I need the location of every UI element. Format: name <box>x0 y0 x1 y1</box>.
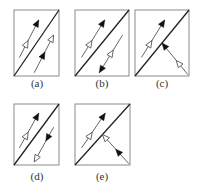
upper-ray-open-arrowhead <box>86 132 92 139</box>
lower-ray-filled-arrowhead <box>99 65 105 73</box>
lower-ray-filled-arrowhead <box>39 52 45 60</box>
upper-ray-open-arrowhead <box>22 41 28 49</box>
lower-ray-filled-arrowhead <box>46 134 52 142</box>
panel-c <box>135 10 189 76</box>
upper-ray-filled-arrowhead <box>33 20 39 28</box>
upper-ray-open-arrowhead <box>146 41 152 49</box>
lower-ray-open-arrowhead <box>176 60 183 67</box>
lower-ray-open-arrowhead <box>107 50 113 58</box>
figure-canvas: (a) (b) (c) (d) (e) <box>0 0 199 192</box>
panel-d <box>14 104 59 165</box>
lower-ray-open-arrowhead <box>34 154 40 162</box>
interface-line <box>14 10 59 76</box>
panel-label-b: (b) <box>96 77 109 90</box>
panel-label-e: (e) <box>96 170 109 183</box>
upper-ray-filled-arrowhead <box>33 113 39 121</box>
upper-ray-filled-arrowhead <box>99 113 105 120</box>
panel-label-d: (d) <box>31 170 44 183</box>
upper-ray-filled-arrowhead <box>158 20 164 28</box>
panel-label-c: (c) <box>156 77 169 90</box>
lower-ray-filled-arrowhead <box>162 43 169 50</box>
upper-ray-open-arrowhead <box>86 41 92 49</box>
panel-e <box>75 104 130 165</box>
lower-ray-open-arrowhead <box>48 35 54 43</box>
panel-label-a: (a) <box>31 77 44 90</box>
panel-a <box>14 10 59 76</box>
upper-ray-open-arrowhead <box>22 132 28 140</box>
upper-ray-filled-arrowhead <box>98 20 104 28</box>
panel-b <box>75 10 129 76</box>
